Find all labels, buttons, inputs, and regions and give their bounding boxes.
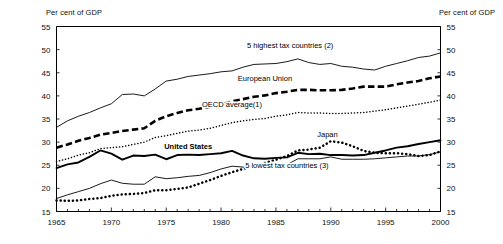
svg-text:55: 55: [447, 23, 456, 32]
svg-text:1980: 1980: [212, 218, 230, 227]
svg-text:40: 40: [42, 92, 51, 101]
svg-text:1985: 1985: [267, 218, 285, 227]
svg-text:1970: 1970: [102, 218, 120, 227]
svg-text:25: 25: [447, 161, 456, 170]
svg-text:15: 15: [447, 208, 456, 217]
svg-text:35: 35: [42, 115, 51, 124]
svg-text:30: 30: [42, 138, 51, 147]
tax-revenue-line-chart: 152025303540455055 152025303540455055 19…: [0, 0, 503, 244]
series-label-4: Japan: [317, 130, 337, 139]
svg-text:1995: 1995: [377, 218, 395, 227]
series-label-3: OECD average(1): [202, 100, 263, 109]
series-label-2: European Union: [238, 74, 292, 83]
svg-text:25: 25: [42, 161, 51, 170]
x-axis: 19651970197519801985199019952000: [48, 208, 450, 227]
series-label-5: United States: [164, 142, 212, 151]
svg-text:35: 35: [447, 115, 456, 124]
svg-text:40: 40: [447, 92, 456, 101]
svg-text:50: 50: [42, 46, 51, 55]
svg-text:1975: 1975: [157, 218, 175, 227]
series-line-1: [57, 53, 441, 127]
svg-text:45: 45: [447, 69, 456, 78]
svg-text:55: 55: [42, 23, 51, 32]
svg-text:20: 20: [42, 184, 51, 193]
svg-text:50: 50: [447, 46, 456, 55]
series-line-2: [57, 76, 441, 147]
series-line-3: [57, 100, 441, 162]
svg-text:20: 20: [447, 184, 456, 193]
series-label-1: 5 highest tax countries (2): [247, 41, 334, 50]
svg-text:15: 15: [42, 208, 51, 217]
plot-frame: [57, 27, 441, 212]
chart-figure: Per cent of GDP Per cent of GDP 15202530…: [0, 0, 503, 244]
svg-text:1990: 1990: [322, 218, 340, 227]
svg-text:45: 45: [42, 69, 51, 78]
svg-text:30: 30: [447, 138, 456, 147]
svg-text:2000: 2000: [432, 218, 450, 227]
svg-text:1965: 1965: [48, 218, 66, 227]
series-labels-group: 5 highest tax countries (2)5 highest tax…: [164, 41, 338, 170]
series-line-6: [57, 152, 441, 199]
series-label-6: 5 lowest tax countries (3): [245, 161, 329, 170]
